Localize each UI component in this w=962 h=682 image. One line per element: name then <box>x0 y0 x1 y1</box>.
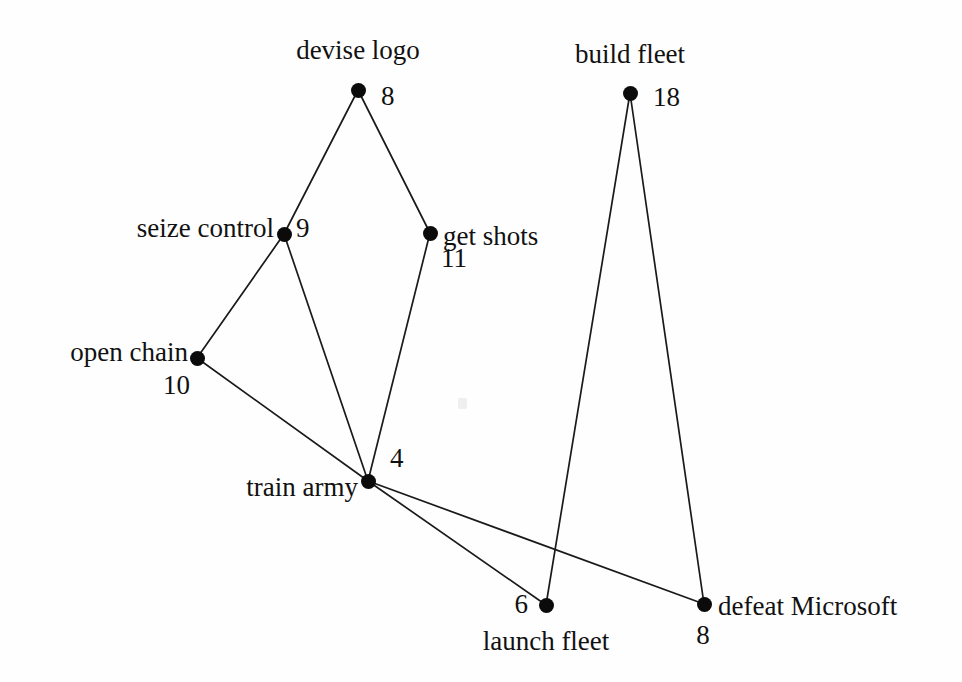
node-weight-launch-fleet: 6 <box>515 591 529 618</box>
graph-edge <box>358 90 430 233</box>
scan-speck <box>458 398 467 409</box>
node-weight-open-chain: 10 <box>163 372 190 399</box>
node-label-launch-fleet: launch fleet <box>483 628 610 655</box>
node-label-defeat-microsoft: defeat Microsoft <box>718 593 897 620</box>
graph-node-train-army[interactable] <box>361 474 376 489</box>
node-weight-get-shots: 11 <box>441 245 467 272</box>
graph-node-seize-control[interactable] <box>277 227 292 242</box>
node-weight-defeat-microsoft: 8 <box>696 622 710 649</box>
graph-node-get-shots[interactable] <box>423 226 438 241</box>
node-label-open-chain: open chain <box>70 339 188 366</box>
node-weight-seize-control: 9 <box>296 215 310 242</box>
node-label-build-fleet: build fleet <box>575 41 685 68</box>
graph-edge <box>197 234 284 358</box>
graph-node-defeat-microsoft[interactable] <box>697 597 712 612</box>
graph-node-devise-logo[interactable] <box>351 83 366 98</box>
node-label-seize-control: seize control <box>137 215 274 242</box>
node-weight-devise-logo: 8 <box>381 83 395 110</box>
node-label-train-army: train army <box>246 474 358 501</box>
graph-node-build-fleet[interactable] <box>623 86 638 101</box>
graph-node-open-chain[interactable] <box>190 351 205 366</box>
graph-edge <box>630 93 704 604</box>
graph-edge <box>546 93 630 605</box>
node-label-devise-logo: devise logo <box>296 37 420 64</box>
node-weight-train-army: 4 <box>390 445 404 472</box>
graph-edge <box>197 358 368 481</box>
graph-edge <box>368 481 704 604</box>
graph-node-launch-fleet[interactable] <box>539 598 554 613</box>
graph-edge <box>284 234 368 481</box>
node-weight-build-fleet: 18 <box>653 84 680 111</box>
graph-edge <box>368 481 546 605</box>
graph-canvas: devise logo8build fleet18seize control9g… <box>0 0 962 682</box>
